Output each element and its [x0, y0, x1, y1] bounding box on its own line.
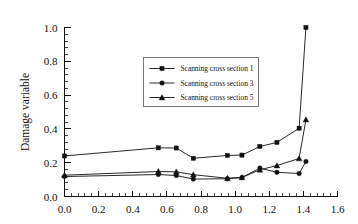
y-tick-label: 0.8 — [44, 55, 58, 67]
axes-group — [65, 27, 338, 197]
series-2 — [62, 159, 308, 181]
marker-square — [240, 153, 244, 157]
y-tick-label: 0.4 — [44, 123, 58, 135]
marker-circle — [304, 159, 309, 164]
x-tick-label: 1.0 — [228, 203, 242, 215]
y-tick-label: 0.0 — [44, 191, 58, 203]
x-axis-ticks: 0.00.20.40.60.81.01.21.41.6 — [58, 191, 345, 215]
y-tick-label: 0.2 — [44, 157, 58, 169]
x-tick-label: 0.8 — [194, 203, 208, 215]
marker-circle — [275, 170, 280, 175]
marker-square — [174, 146, 178, 150]
marker-square — [297, 126, 301, 130]
x-tick-label: 1.6 — [331, 203, 345, 215]
x-tick-label: 0.6 — [160, 203, 174, 215]
marker-square — [160, 66, 164, 70]
y-axis-title: Damage variable — [19, 73, 32, 151]
series-line — [65, 120, 306, 179]
marker-square — [225, 153, 229, 157]
legend-label: Scanning cross section 3 — [181, 79, 254, 88]
marker-square — [62, 154, 66, 158]
marker-circle — [160, 81, 165, 86]
legend: Scanning cross section 1Scanning cross s… — [144, 58, 259, 107]
marker-triangle — [303, 117, 309, 122]
series-line — [65, 162, 306, 180]
y-tick-label: 0.6 — [44, 89, 58, 101]
legend-label: Scanning cross section 5 — [181, 93, 254, 102]
marker-square — [304, 25, 308, 29]
x-tick-label: 0.4 — [126, 203, 140, 215]
x-tick-label: 1.4 — [297, 203, 311, 215]
marker-square — [275, 140, 279, 144]
marker-circle — [191, 177, 196, 182]
legend-label: Scanning cross section 1 — [181, 64, 254, 73]
x-tick-label: 0.0 — [58, 203, 72, 215]
x-tick-label: 0.2 — [92, 203, 106, 215]
damage-variable-line-chart: 0.00.20.40.60.81.01.21.41.60.00.20.40.60… — [0, 0, 358, 224]
marker-square — [191, 156, 195, 160]
chart-figure: 0.00.20.40.60.81.01.21.41.60.00.20.40.60… — [0, 0, 358, 224]
marker-square — [156, 146, 160, 150]
y-tick-label: 1.0 — [44, 22, 58, 34]
marker-circle — [297, 171, 302, 176]
marker-square — [258, 144, 262, 148]
x-tick-label: 1.2 — [262, 203, 276, 215]
marker-triangle — [296, 156, 302, 161]
